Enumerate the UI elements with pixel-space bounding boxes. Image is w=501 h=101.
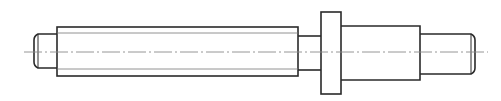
shaft-drawing xyxy=(0,0,501,101)
neck xyxy=(298,36,321,70)
collar xyxy=(321,12,341,94)
right-section xyxy=(341,26,420,80)
right-stub xyxy=(420,34,475,74)
left-stub xyxy=(34,34,57,68)
main-shaft xyxy=(57,27,298,76)
